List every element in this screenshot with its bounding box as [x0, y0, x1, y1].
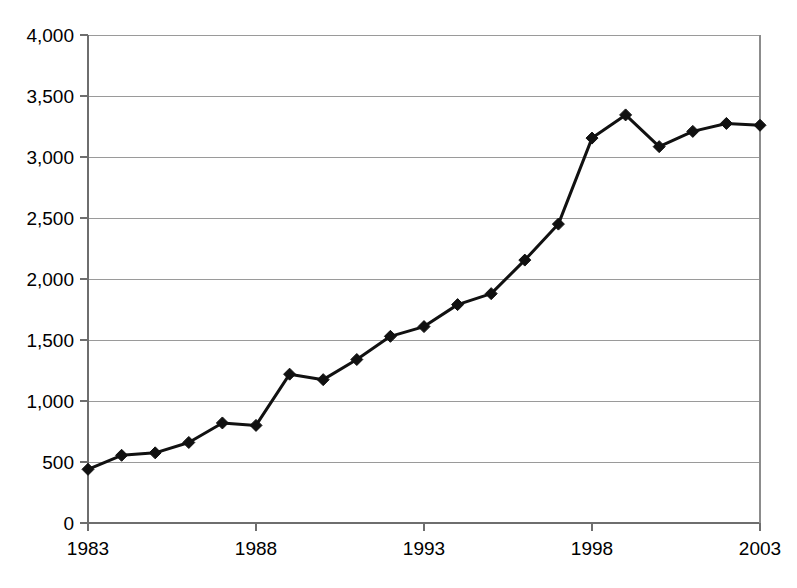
data-point-marker	[149, 447, 161, 459]
chart-canvas: 05001,0001,5002,0002,5003,0003,5004,000 …	[0, 0, 797, 588]
y-tick-label: 1,500	[26, 330, 74, 351]
y-tick-label: 3,000	[26, 147, 74, 168]
y-tick-label: 2,000	[26, 269, 74, 290]
y-tick-label: 2,500	[26, 208, 74, 229]
y-axis-ticks	[80, 35, 88, 523]
y-tick-label: 500	[42, 452, 74, 473]
data-point-marker	[687, 125, 699, 137]
data-point-marker	[754, 119, 766, 131]
x-tick-label: 1998	[571, 538, 613, 559]
x-axis-ticks	[88, 523, 760, 531]
data-point-marker	[183, 436, 195, 448]
y-tick-label: 3,500	[26, 86, 74, 107]
x-axis-labels: 19831988199319982003	[67, 538, 781, 559]
data-series	[88, 115, 760, 469]
line-chart: 05001,0001,5002,0002,5003,0003,5004,000 …	[0, 0, 797, 588]
y-tick-label: 0	[63, 513, 74, 534]
gridlines-group	[88, 35, 760, 462]
y-axis-labels: 05001,0001,5002,0002,5003,0003,5004,000	[26, 25, 74, 534]
data-point-marker	[82, 463, 94, 475]
y-tick-label: 4,000	[26, 25, 74, 46]
series-line	[88, 115, 760, 469]
x-tick-label: 1993	[403, 538, 445, 559]
data-point-marker	[216, 417, 228, 429]
data-point-marker	[116, 449, 128, 461]
x-tick-label: 1988	[235, 538, 277, 559]
data-markers	[82, 109, 766, 475]
x-tick-label: 2003	[739, 538, 781, 559]
y-tick-label: 1,000	[26, 391, 74, 412]
x-tick-label: 1983	[67, 538, 109, 559]
data-point-marker	[720, 117, 732, 129]
